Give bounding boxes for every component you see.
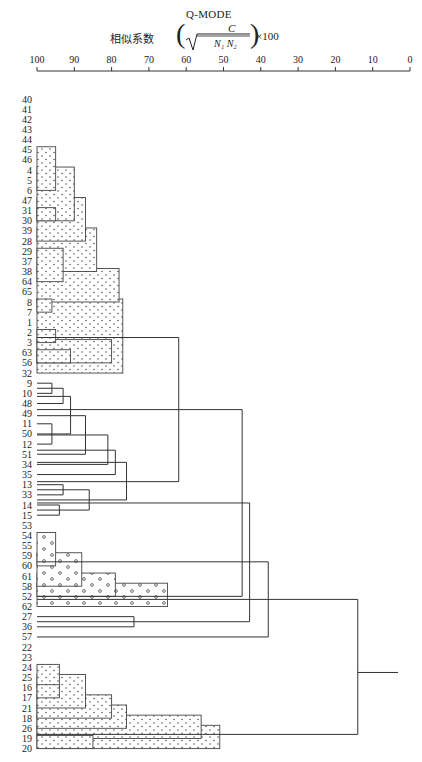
axis-tick-label: 90	[69, 54, 79, 65]
sample-labels: 4041424344454645647313039282937386465871…	[22, 94, 32, 755]
axis-tick-label: 30	[293, 54, 303, 65]
axis-tick-label: 100	[30, 54, 45, 65]
cluster-box	[37, 329, 56, 342]
cluster-box	[37, 248, 63, 281]
cluster-link	[37, 396, 71, 434]
cluster-link	[37, 435, 108, 464]
cluster-box	[37, 147, 56, 191]
cluster-box	[37, 350, 71, 363]
cluster-box	[37, 532, 56, 565]
cluster-box	[37, 664, 59, 687]
axis-tick-label: 60	[181, 54, 191, 65]
cluster-links	[37, 338, 398, 735]
cluster-box	[37, 299, 52, 312]
axis-tick-label: 0	[408, 54, 413, 65]
dendrogram-chart: 1009080706050403020100 40414243444546456…	[0, 0, 422, 762]
cluster-link	[37, 462, 127, 500]
axis-tick-label: 50	[219, 54, 229, 65]
cluster-box	[37, 685, 59, 698]
axis-tick-label: 40	[256, 54, 266, 65]
sample-label: 20	[22, 743, 32, 754]
axis-tick-label: 20	[330, 54, 340, 65]
stippled-clusters	[37, 147, 220, 749]
cluster-box	[37, 208, 56, 221]
similarity-axis: 1009080706050403020100	[30, 54, 413, 71]
cluster-box	[37, 735, 93, 748]
axis-tick-label: 70	[144, 54, 154, 65]
axis-tick-label: 10	[368, 54, 378, 65]
cluster-link	[37, 388, 63, 403]
axis-tick-label: 80	[107, 54, 117, 65]
